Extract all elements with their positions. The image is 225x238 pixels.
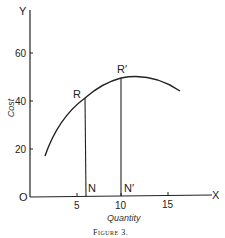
x-tick-label-5: 5 — [74, 200, 80, 211]
y-tick-label-40: 40 — [15, 96, 27, 107]
vertical-r-n — [85, 98, 86, 196]
origin-label: O — [19, 191, 28, 203]
figure-caption: Figure 3. — [93, 228, 128, 237]
x-tick-label-10: 10 — [115, 200, 127, 211]
x-axis-title: Quantity — [107, 213, 141, 223]
y-axis-title: Cost — [6, 98, 16, 117]
cost-quantity-chart: Y X O 60 40 20 5 10 15 R R′ N N′ Cost Qu… — [0, 0, 225, 238]
y-axis-label: Y — [19, 5, 27, 17]
point-label-n-prime: N′ — [124, 182, 134, 194]
x-tick-label-15: 15 — [162, 199, 174, 210]
x-axis-label: X — [212, 189, 220, 201]
point-label-r-prime: R′ — [117, 63, 127, 75]
cost-curve — [45, 77, 180, 156]
y-tick-label-20: 20 — [15, 144, 27, 155]
point-label-n: N — [88, 182, 96, 194]
point-label-r: R — [73, 88, 81, 100]
y-tick-label-60: 60 — [15, 48, 27, 59]
